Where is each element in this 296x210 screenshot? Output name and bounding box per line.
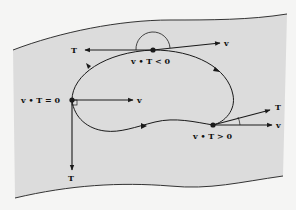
left-point [69,97,74,102]
right-T-label: T [275,102,281,112]
left-condition-label: v • T = 0 [20,95,61,105]
top-condition-label: v • T < 0 [130,56,171,66]
diagram-canvas: T v v • T < 0 v T v • T = 0 T v v • T > … [0,0,296,210]
right-point [210,122,215,127]
right-condition-label: v • T > 0 [192,131,233,141]
top-point [150,47,155,52]
vector-field-diagram: T v v • T < 0 v T v • T = 0 T v v • T > … [0,0,296,210]
left-T-label: T [68,173,74,183]
top-T-label: T [71,45,77,55]
left-v-label: v [136,95,142,105]
right-v-label: v [275,120,281,130]
top-v-label: v [223,38,229,48]
surface [13,14,287,198]
